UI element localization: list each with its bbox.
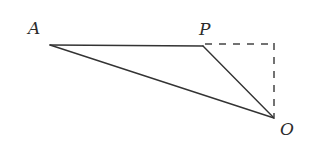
diagram-canvas bbox=[0, 0, 310, 162]
vertex-label-a: A bbox=[28, 20, 40, 37]
geometry-diagram: A P O bbox=[0, 0, 310, 162]
vertex-label-p: P bbox=[199, 21, 210, 38]
segment-PO bbox=[203, 46, 274, 118]
vertex-label-o: O bbox=[280, 121, 294, 138]
segment-AP bbox=[50, 45, 203, 46]
segment-AO bbox=[50, 45, 274, 118]
